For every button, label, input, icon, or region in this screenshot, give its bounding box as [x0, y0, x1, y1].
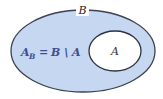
- venn-diagram: B A A B = B \ A: [0, 0, 163, 99]
- formula-rhs: B \ A: [50, 46, 81, 59]
- set-b-label: B: [77, 4, 86, 17]
- set-difference-formula: A B = B \ A: [20, 46, 81, 61]
- formula-lhs-subscript: B: [28, 52, 35, 61]
- formula-equals: =: [39, 46, 48, 59]
- set-a-label: A: [110, 45, 119, 58]
